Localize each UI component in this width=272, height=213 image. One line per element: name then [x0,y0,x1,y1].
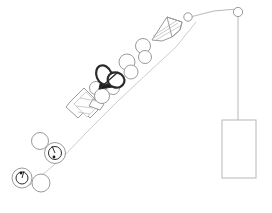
ring-gauge-lower-center-dot [20,172,23,175]
small-pulley-right [233,7,242,16]
ring-gauge-upper-center-dot [53,156,56,159]
suspended-weight-block [222,120,256,178]
diagram-canvas [0,0,272,213]
technical-diagram [0,0,272,213]
ring-gauge-lower [12,168,32,188]
chain-circle-4 [124,65,138,79]
chain-circle-2 [139,51,152,64]
chain-circle-8 [95,89,110,104]
ring-gauge-upper [45,143,66,164]
small-pulley-left [184,13,192,21]
lower-plain-circle-2 [32,174,50,192]
